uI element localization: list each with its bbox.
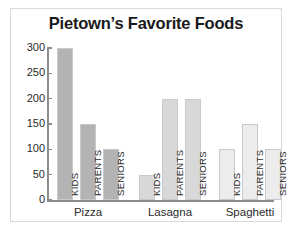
y-axis-tick-mark <box>47 73 52 75</box>
y-axis-tick-label: 300 <box>5 42 45 53</box>
bar-member-label: SENIORS <box>115 151 126 196</box>
chart-figure: Pietown’s Favorite Foods 300250200150100… <box>0 0 292 232</box>
y-axis-tick-mark <box>47 149 52 151</box>
y-axis-tick-label: 100 <box>5 143 45 154</box>
y-axis-tick-mark <box>47 174 52 176</box>
bar-member-label: KIDS <box>69 173 80 196</box>
y-axis-tick-label: 50 <box>5 169 45 180</box>
y-axis-tick-mark <box>47 199 52 201</box>
bar-member-label: PARENTS <box>174 150 185 196</box>
bar-member-label: SENIORS <box>277 151 288 196</box>
bar-member-label: KIDS <box>231 173 242 196</box>
y-axis-tick-label: 0 <box>5 194 45 205</box>
plot-area: 300250200150100500 KIDSPARENTSSENIORSKID… <box>0 0 292 232</box>
y-axis-tick-label: 200 <box>5 93 45 104</box>
y-axis-tick-mark <box>47 123 52 125</box>
bar-member-label: PARENTS <box>92 150 103 196</box>
bar-member-label: PARENTS <box>254 150 265 196</box>
y-axis-tick-label: 150 <box>5 118 45 129</box>
y-axis-tick-label: 250 <box>5 67 45 78</box>
bar-member-label: SENIORS <box>197 151 208 196</box>
bar-member-label: KIDS <box>151 173 162 196</box>
y-axis-tick-mark <box>47 98 52 100</box>
y-axis-tick-mark <box>47 47 52 49</box>
x-axis-group-label: Spaghetti <box>200 206 292 218</box>
x-axis-line <box>47 200 274 202</box>
